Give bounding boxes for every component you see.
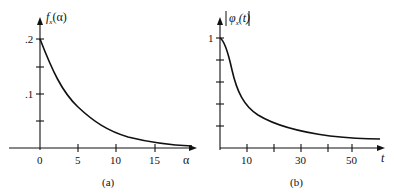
panel-a-xtick-0: 0: [37, 155, 43, 166]
panel-a-curve: [40, 39, 192, 146]
panel-a-ytick-0.1: .1: [25, 89, 33, 100]
panel-b-xtick-30: 30: [295, 155, 306, 166]
panel-b-ytick-1: 1: [208, 33, 214, 44]
panel-a-xtick-10: 10: [110, 155, 121, 166]
panel-b-ylabel: φx(t): [229, 13, 250, 29]
panel-b-xlabel: t: [381, 153, 384, 164]
panel-a-ylabel-arg: (α): [52, 10, 66, 24]
panel-a-caption: (a): [102, 177, 114, 188]
panel-a-xlabel: α: [183, 155, 189, 166]
panel-b-caption: (b): [290, 177, 303, 188]
panel-b-axes: [216, 22, 380, 152]
panel-b-xtick-10: 10: [241, 155, 252, 166]
panel-a-xtick-5: 5: [75, 155, 81, 166]
panel-a-ylabel: fx(α): [46, 12, 67, 28]
panel-a-xtick-15: 15: [149, 155, 160, 166]
panel-b-xtick-50: 50: [346, 155, 357, 166]
panel-b-ylabel-main: φ: [229, 11, 236, 25]
panel-a-axes: [9, 22, 192, 152]
panel-a-y-arrow-icon: [37, 17, 43, 25]
panel-b-ylabel-arg: (t): [239, 11, 250, 25]
panel-b-curve: [220, 38, 380, 139]
panel-b-y-arrow-icon: [217, 17, 223, 25]
chart-canvas: [0, 0, 394, 195]
panel-a-ytick-0.2: .2: [25, 34, 33, 45]
